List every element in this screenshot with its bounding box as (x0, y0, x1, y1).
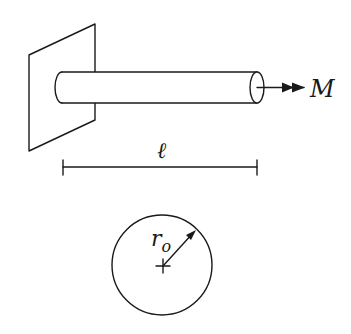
moment-label: M (309, 75, 336, 103)
radius-label: ro (151, 226, 171, 256)
diagram-canvas: M ℓ ro (0, 0, 351, 334)
length-label: ℓ (157, 138, 167, 163)
cross-section-circle (112, 215, 212, 315)
rod (55, 72, 264, 103)
